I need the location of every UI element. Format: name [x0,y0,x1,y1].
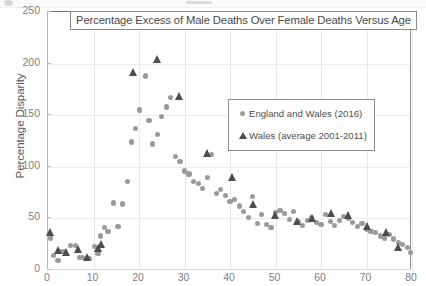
data-point-circle [205,175,210,180]
gridline-vertical [139,12,140,269]
data-point-triangle [62,248,70,256]
data-point-circle [133,126,138,131]
x-tick-label: 50 [262,272,288,283]
data-point-circle [150,141,155,146]
scan-smudge-right [186,1,212,4]
data-point-circle [173,154,178,159]
x-tick-label: 70 [353,272,379,283]
data-point-circle [218,187,223,192]
data-point-triangle [363,222,371,230]
data-point-circle [105,229,110,234]
y-tick-mark [47,166,51,167]
scatter-chart: Percentage Disparity Age 050100150200250… [0,0,426,286]
data-point-triangle [46,228,54,236]
data-point-triangle [293,217,301,225]
y-axis-label: Percentage Disparity [14,56,26,196]
data-point-circle [214,191,219,196]
legend-item-wales: Wales (average 2001-2011) [236,127,367,144]
data-point-circle [168,95,173,100]
y-tick-mark [47,269,51,270]
data-point-triangle [74,245,82,253]
data-point-circle [282,211,287,216]
data-point-triangle [83,253,91,261]
x-tick-label: 10 [80,272,106,283]
y-tick-mark [47,217,51,218]
gridline-vertical [412,12,413,269]
data-point-triangle [344,211,352,219]
data-point-circle [186,171,191,176]
x-tick-label: 0 [34,272,60,283]
data-point-triangle [153,55,161,63]
gridline-horizontal [48,64,410,65]
data-point-circle [255,221,260,226]
data-point-triangle [394,243,402,251]
data-point-circle [120,201,125,206]
data-point-circle [146,118,151,123]
data-point-triangle [129,68,137,76]
data-point-circle [129,139,134,144]
data-point-circle [177,159,182,164]
data-point-circle [164,104,169,109]
legend-label-wales: Wales (average 2001-2011) [249,130,367,141]
data-point-triangle [54,246,62,254]
data-point-circle [155,132,160,137]
x-tick-label: 40 [216,272,242,283]
data-point-circle [237,203,242,208]
data-point-triangle [228,173,236,181]
data-point-circle [300,223,305,228]
data-point-triangle [203,149,211,157]
scan-artifact-strip [0,0,426,8]
data-point-circle [259,212,264,217]
data-point-circle [98,233,103,238]
data-point-circle [287,217,292,222]
gridline-vertical [94,12,95,269]
data-point-circle [337,218,342,223]
data-point-circle [241,209,246,214]
x-tick-label: 20 [125,272,151,283]
y-tick-label: 150 [0,108,40,118]
y-tick-mark [47,114,51,115]
data-point-circle [291,209,296,214]
triangle-marker-icon [236,132,249,139]
data-point-circle [332,223,337,228]
x-tick-label: 30 [171,272,197,283]
data-point-circle [268,225,273,230]
y-tick-label: 50 [0,211,40,221]
data-point-triangle [308,214,316,222]
data-point-triangle [175,92,183,100]
data-point-circle [246,215,251,220]
gridline-horizontal [48,218,410,219]
chart-title: Percentage Excess of Male Deaths Over Fe… [70,11,417,30]
y-tick-mark [47,63,51,64]
x-tick-label: 80 [398,272,424,283]
data-point-triangle [97,240,105,248]
data-point-circle [223,193,228,198]
legend-item-england-and-wales: England and Wales (2016) [236,105,367,122]
legend: England and Wales (2016) Wales (average … [228,99,375,151]
data-point-circle [318,222,323,227]
circle-marker-icon [236,111,249,116]
legend-label-england-and-wales: England and Wales (2016) [249,108,362,119]
data-point-circle [408,250,413,255]
data-point-circle [250,194,255,199]
data-point-triangle [382,228,390,236]
data-point-circle [111,200,116,205]
x-axis-line [47,269,411,270]
x-tick-label: 60 [307,272,333,283]
gridline-vertical [185,12,186,269]
data-point-circle [200,186,205,191]
data-point-circle [143,73,148,78]
data-point-triangle [249,200,257,208]
data-point-triangle [271,211,279,219]
y-tick-label: 200 [0,57,40,67]
data-point-circle [196,181,201,186]
data-point-circle [55,258,60,263]
y-tick-mark [47,11,51,12]
data-point-circle [48,235,53,240]
y-tick-label: 250 [0,5,40,15]
gridline-horizontal [48,167,410,168]
data-point-circle [232,197,237,202]
data-point-circle [159,114,164,119]
data-point-circle [137,107,142,112]
y-tick-label: 100 [0,160,40,170]
